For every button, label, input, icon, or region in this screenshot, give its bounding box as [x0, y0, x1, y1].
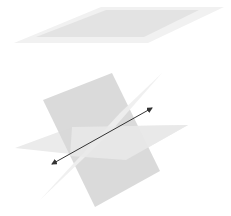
single-plane	[14, 7, 224, 43]
intersecting-planes	[15, 73, 188, 207]
horizontal-plane-front	[70, 125, 188, 160]
diagram-canvas	[0, 0, 231, 216]
planes-diagram	[0, 0, 231, 216]
